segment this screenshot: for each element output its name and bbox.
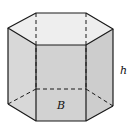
base-label: B (56, 99, 65, 112)
hexagonal-prism-figure: B h (0, 0, 132, 135)
height-label: h (120, 64, 127, 77)
hexagonal-prism-diagram: B h (0, 0, 132, 135)
